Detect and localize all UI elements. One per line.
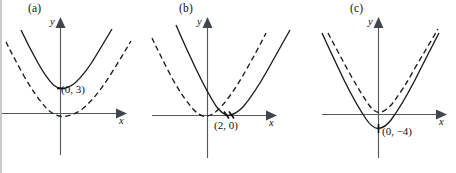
panel-b-dashed-parabola [152,33,266,117]
panel-a-solid-parabola [21,29,112,89]
panel-b-point-label: (2, 0) [214,119,238,131]
panel-a-dashed-parabola [6,41,131,117]
panel-c-y-axis-label: y [368,16,373,27]
panel-b-solid-parabola [176,25,290,116]
panel-b-graph [150,0,302,173]
panel-a-y-axis-label: y [50,16,55,27]
panel-c-point-label: (0, −4) [382,125,412,137]
figure-canvas: (a) (0, 3) x y (b) [0,0,456,173]
panel-a-x-axis-label: x [119,115,124,126]
panel-c-graph [302,0,456,173]
panel-b: (b) (2, 0) x y [150,0,302,173]
panel-a: (a) (0, 3) x y [0,0,150,173]
panel-b-y-axis-arrowhead [203,17,213,28]
panel-b-x-axis-label: x [269,117,274,128]
panel-c: (c) (0, −4) x y [302,0,456,173]
panel-c-y-axis-arrowhead [374,17,384,28]
panel-a-point-label: (0, 3) [61,83,85,95]
panel-b-y-axis-label: y [197,16,202,27]
panel-c-dashed-parabola [328,29,438,113]
panel-c-x-axis-label: x [439,116,444,127]
panel-a-y-axis-arrowhead [56,17,66,28]
